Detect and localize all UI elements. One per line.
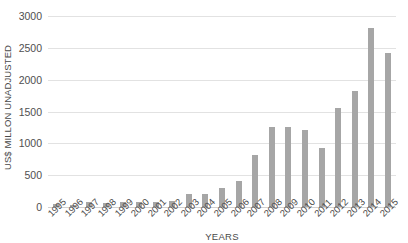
bar-slot-2000	[131, 16, 148, 207]
bar-slot-2006	[230, 16, 247, 207]
y-axis-tick-1500: 1500	[0, 106, 42, 118]
bar-slot-1997	[81, 16, 98, 207]
bar-chart: US$ MILLON UNADJUSTED 050010001500200025…	[0, 0, 408, 243]
bar-2008[interactable]	[269, 127, 275, 207]
bar-2015[interactable]	[385, 53, 391, 207]
bar-slot-2001	[147, 16, 164, 207]
bar-slot-1996	[65, 16, 82, 207]
bar-slot-2013	[346, 16, 363, 207]
bar-slot-2007	[247, 16, 264, 207]
y-axis-tick-0: 0	[0, 201, 42, 213]
bar-slot-2010	[297, 16, 314, 207]
bar-slot-2003	[181, 16, 198, 207]
bar-2012[interactable]	[335, 108, 341, 207]
y-axis-tick-2500: 2500	[0, 42, 42, 54]
bar-2009[interactable]	[285, 127, 291, 207]
y-axis-tick-1000: 1000	[0, 137, 42, 149]
y-axis-tick-3000: 3000	[0, 10, 42, 22]
bar-slot-2014	[363, 16, 380, 207]
bar-slot-2005	[214, 16, 231, 207]
bar-2013[interactable]	[352, 91, 358, 207]
y-axis-tick-2000: 2000	[0, 74, 42, 86]
bar-2010[interactable]	[302, 130, 308, 207]
bar-slot-2002	[164, 16, 181, 207]
bar-slot-2012	[330, 16, 347, 207]
bar-2014[interactable]	[368, 28, 374, 207]
bar-slot-1999	[114, 16, 131, 207]
bar-slot-1995	[48, 16, 65, 207]
y-axis-tick-500: 500	[0, 169, 42, 181]
bar-slot-2009	[280, 16, 297, 207]
bar-series	[48, 16, 396, 207]
bar-slot-2011	[313, 16, 330, 207]
bar-slot-1998	[98, 16, 115, 207]
bar-slot-2004	[197, 16, 214, 207]
plot-area: 050010001500200025003000	[48, 16, 396, 207]
x-axis-title: YEARS	[48, 231, 396, 242]
bar-slot-2008	[264, 16, 281, 207]
bar-slot-2015	[380, 16, 397, 207]
